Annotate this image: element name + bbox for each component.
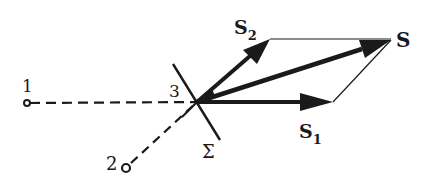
point-2-marker	[122, 164, 130, 172]
label-sigma: Σ	[202, 141, 215, 162]
point-1-marker	[24, 100, 30, 106]
label-point-2: 2	[106, 153, 117, 174]
crossing-tick	[182, 102, 197, 117]
label-point-1: 1	[22, 76, 33, 96]
vector-diagram: 1 2 3 Σ S2 S1 S	[0, 0, 433, 185]
label-point-3: 3	[169, 81, 180, 101]
label-s-resultant: S	[396, 28, 410, 52]
label-s2: S2	[234, 16, 257, 43]
label-s1: S1	[299, 120, 322, 147]
dashed-path-1-to-3	[30, 102, 197, 103]
